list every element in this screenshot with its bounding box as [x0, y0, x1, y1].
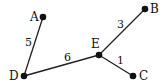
nodes [21, 6, 149, 80]
edge-weight-label: 1 [117, 54, 124, 67]
node-b-dot [142, 6, 149, 13]
edge-weight-label: 5 [25, 36, 32, 49]
graph-svg: 5361 ABEDC [0, 0, 165, 84]
node-label-d: D [9, 69, 19, 83]
node-label-e: E [91, 37, 100, 51]
node-label-a: A [29, 10, 39, 24]
node-e-dot [96, 52, 103, 59]
node-label-c: C [139, 69, 148, 83]
edge-e-c [99, 55, 133, 76]
edge-d-e [24, 55, 99, 76]
node-d-dot [21, 73, 28, 80]
weighted-graph-diagram: 5361 ABEDC [0, 0, 165, 84]
node-c-dot [130, 73, 137, 80]
node-a-dot [40, 14, 47, 21]
edge-weight-label: 3 [117, 18, 124, 31]
node-label-b: B [150, 2, 159, 16]
edge-e-b [99, 9, 145, 55]
edge-weight-label: 6 [64, 51, 71, 64]
